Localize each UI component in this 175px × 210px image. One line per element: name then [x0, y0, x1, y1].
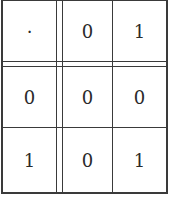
operation-table: · 0 1 0 0 0 1 0 1	[0, 0, 175, 210]
column-header-0: 0	[63, 1, 112, 61]
border-bottom	[1, 192, 168, 194]
table-cell-1-1: 1	[113, 128, 166, 192]
border-right	[166, 0, 168, 194]
header-row-divider-a	[1, 61, 168, 62]
header-column-divider-a	[56, 0, 57, 194]
column-header-1: 1	[113, 1, 166, 61]
row-header-1: 1	[3, 128, 56, 192]
table-cell-0-1: 0	[113, 67, 166, 127]
table-cell-0-0: 0	[63, 67, 112, 127]
corner-cell: ·	[3, 1, 56, 61]
table-cell-1-0: 0	[63, 128, 112, 192]
row-header-0: 0	[3, 67, 56, 127]
